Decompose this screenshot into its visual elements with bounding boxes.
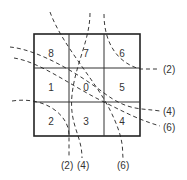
cell-label: 7 bbox=[83, 48, 89, 59]
curve-label-right-2: (2) bbox=[163, 64, 175, 75]
cell-label: 4 bbox=[119, 116, 125, 127]
cell-label: 5 bbox=[119, 82, 125, 93]
curve-label-bottom-6: (6) bbox=[117, 160, 129, 171]
curve-label-bottom-4: (4) bbox=[77, 160, 89, 171]
cell-label: 1 bbox=[48, 82, 54, 93]
grid-diagram: 876105234 (2) (4) (6) (2) (4) (6) bbox=[0, 0, 187, 180]
cell-label: 6 bbox=[119, 48, 125, 59]
cell-label: 8 bbox=[48, 48, 54, 59]
curve-2-horizontal bbox=[104, 14, 160, 69]
curve-label-right-4: (4) bbox=[163, 106, 175, 117]
cell-label: 3 bbox=[83, 116, 89, 127]
curve-label-bottom-2: (2) bbox=[61, 160, 73, 171]
curve-label-right-6: (6) bbox=[163, 122, 175, 133]
cell-label: 0 bbox=[83, 82, 89, 93]
curve-2-vertical bbox=[12, 100, 69, 158]
cell-label: 2 bbox=[48, 116, 54, 127]
